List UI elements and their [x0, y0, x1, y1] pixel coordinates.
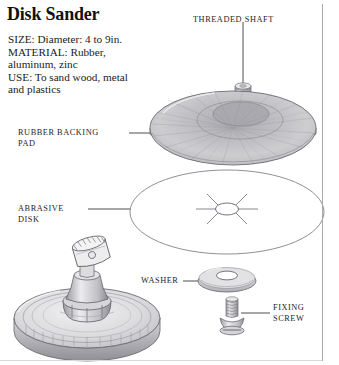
page-frame-bottom-rule	[0, 360, 322, 361]
specifications-block: SIZE: Diameter: 4 to 9in. MATERIAL: Rubb…	[8, 33, 153, 96]
callout-fixing-screw-line2: SCREW	[273, 314, 304, 325]
callout-fixing-screw: FIXING SCREW	[273, 303, 304, 324]
callout-washer: WASHER	[141, 276, 178, 287]
callout-rubber-backing-pad-line1: RUBBER BACKING	[18, 128, 99, 139]
callout-threaded-shaft-label: THREADED SHAFT	[193, 15, 274, 24]
spec-line-use: USE: To sand wood, metal	[8, 71, 153, 84]
spec-line-size: SIZE: Diameter: 4 to 9in.	[8, 33, 153, 46]
callout-fixing-screw-line1: FIXING	[273, 303, 304, 314]
callout-washer-label: WASHER	[141, 276, 178, 285]
callout-abrasive-disk-line1: ABRASIVE	[18, 204, 64, 215]
drill-chuck-sander-assembly	[14, 233, 160, 361]
page-frame-right-rule	[322, 4, 323, 361]
callout-threaded-shaft: THREADED SHAFT	[193, 15, 274, 26]
spec-line-material: MATERIAL: Rubber,	[8, 46, 153, 59]
illustration-page: Disk Sander SIZE: Diameter: 4 to 9in. MA…	[0, 0, 339, 365]
spec-line-use-cont: and plastics	[8, 83, 153, 96]
abrasive-disk-part	[130, 170, 324, 254]
page-title: Disk Sander	[7, 4, 99, 25]
rubber-backing-pad-part	[150, 91, 316, 165]
spec-line-material-cont: aluminum, zinc	[8, 58, 153, 71]
washer-part	[198, 268, 256, 292]
callout-rubber-backing-pad: RUBBER BACKING PAD	[18, 128, 99, 149]
callout-rubber-backing-pad-line2: PAD	[18, 139, 99, 150]
callout-abrasive-disk-line2: DISK	[18, 215, 64, 226]
fixing-screw-part	[220, 297, 244, 335]
callout-abrasive-disk: ABRASIVE DISK	[18, 204, 64, 225]
